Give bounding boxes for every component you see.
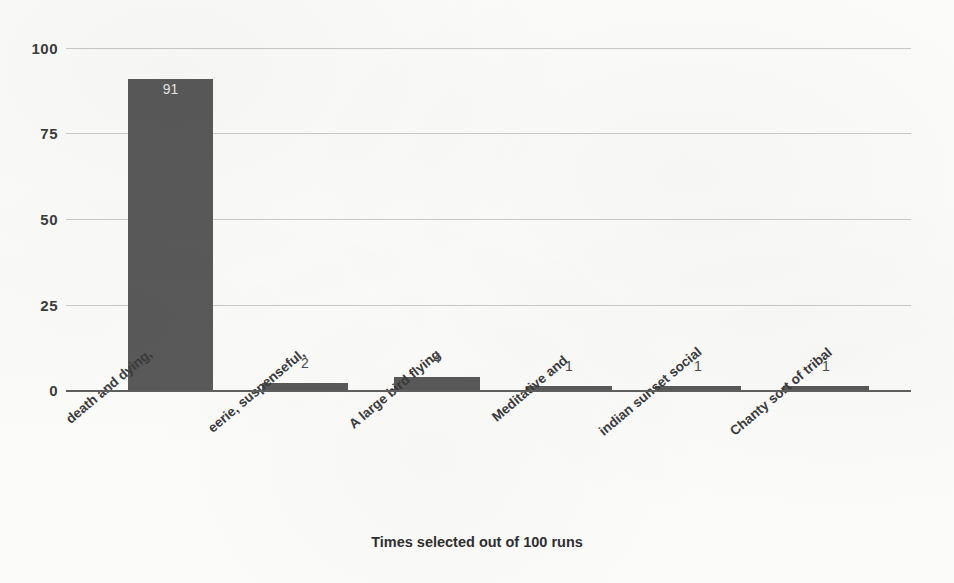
bar-value-label-1: 2 [262,355,348,371]
y-tick-label-50: 50 [12,211,58,228]
bar-chart-plot-area: 100 75 50 25 0 91 2 4 1 1 1 death and dy… [0,0,954,583]
gridline-100 [66,48,911,49]
chart-page: 100 75 50 25 0 91 2 4 1 1 1 death and dy… [0,0,954,583]
bar-value-label-4: 1 [655,358,741,374]
bar-value-label-2: 4 [394,350,480,366]
bar-death-and-dying[interactable] [128,79,213,390]
bar-value-label-3: 1 [526,358,612,374]
y-tick-label-25: 25 [12,297,58,314]
y-tick-label-100: 100 [12,40,58,57]
bar-value-label-0: 91 [128,81,213,97]
y-tick-label-0: 0 [12,382,58,399]
bar-value-label-5: 1 [783,358,869,374]
x-axis-line [66,390,911,392]
x-axis-title: Times selected out of 100 runs [0,534,954,550]
y-tick-label-75: 75 [12,125,58,142]
